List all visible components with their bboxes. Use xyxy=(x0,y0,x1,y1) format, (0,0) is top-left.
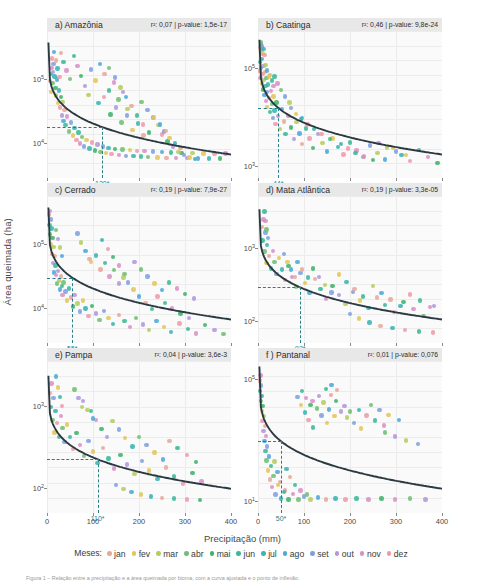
panel-stats-d: r²: 0,19 | p-value: 3,3e-05 xyxy=(362,186,438,193)
plot-area-f xyxy=(258,361,442,513)
x-tick-label: 300 xyxy=(179,517,191,526)
legend-text-ago: ago xyxy=(290,549,304,559)
x-tick-mark xyxy=(350,178,351,181)
panel-b: b) Caatingar²: 0,46 | p-value: 9,8e-2410… xyxy=(258,18,442,178)
legend-text-mar: mar xyxy=(163,549,178,559)
plot-area-c xyxy=(47,196,231,343)
x-tick-mark xyxy=(258,343,259,346)
legend-text-dez: dez xyxy=(394,549,408,559)
panel-f: f ) Pantanalr²: 0,01 | p-value: 0,076105… xyxy=(258,348,442,513)
legend-item-jul[interactable]: jul xyxy=(261,548,277,559)
y-tick-label: 104 xyxy=(33,138,44,148)
panel-c: c) Cerrador²: 0,19 | p-value: 7,9e-27105… xyxy=(47,183,231,343)
fit-curve-c xyxy=(47,196,231,343)
plot-area-a xyxy=(47,31,231,178)
y-tick-mark xyxy=(44,244,47,245)
y-tick-label: 102 xyxy=(33,483,44,493)
y-tick-mark xyxy=(44,308,47,309)
plot-area-e xyxy=(47,361,231,513)
inflection-hline-b xyxy=(258,108,278,109)
x-tick-mark xyxy=(185,513,186,516)
legend-text-mai: mai xyxy=(217,549,231,559)
x-tick-mark xyxy=(47,178,48,181)
y-tick-mark xyxy=(44,143,47,144)
legend-text-nov: nov xyxy=(367,549,381,559)
inflection-hline-e xyxy=(47,459,98,460)
legend-text-jan: jan xyxy=(114,549,125,559)
panel-name-b: b) Caatinga xyxy=(266,20,310,30)
legend-item-ago[interactable]: ago xyxy=(283,548,304,559)
y-tick-label: 104 xyxy=(33,303,44,313)
y-tick-mark xyxy=(255,379,258,380)
panel-title-strip-c: c) Cerrador²: 0,19 | p-value: 7,9e-27 xyxy=(47,183,231,196)
x-tick-mark xyxy=(442,343,443,346)
x-tick-label: 0 xyxy=(256,517,260,526)
inflection-vline-f xyxy=(281,441,282,513)
x-tick-mark xyxy=(350,513,351,516)
x-tick-mark xyxy=(442,513,443,516)
y-tick-mark xyxy=(255,501,258,502)
fit-curve-e xyxy=(47,361,231,513)
legend-item-fev[interactable]: fev xyxy=(132,548,151,559)
panel-d: d) Mata Atlânticar²: 0,19 | p-value: 3,3… xyxy=(258,183,442,343)
panel-stats-c: r²: 0,19 | p-value: 7,9e-27 xyxy=(151,186,227,193)
legend-item-jan[interactable]: jan xyxy=(107,548,126,559)
legend: Meses:janfevmarabrmaijunjulagosetoutnovd… xyxy=(0,548,485,559)
legend-item-nov[interactable]: nov xyxy=(360,548,381,559)
x-tick-label: 400 xyxy=(225,517,237,526)
x-tick-mark xyxy=(93,343,94,346)
panel-title-strip-f: f ) Pantanalr²: 0,01 | p-value: 0,076 xyxy=(258,348,442,361)
fit-curve-b xyxy=(258,31,442,178)
fit-curve-f xyxy=(258,361,442,513)
inflection-hline-a xyxy=(47,127,102,128)
legend-text-set: set xyxy=(317,549,328,559)
inflection-vline-d xyxy=(300,287,301,343)
inflection-vline-b xyxy=(278,108,279,178)
x-tick-mark xyxy=(139,513,140,516)
legend-item-out[interactable]: out xyxy=(335,548,354,559)
fit-curve-d xyxy=(258,196,442,343)
y-tick-label: 103 xyxy=(244,242,255,252)
x-tick-mark xyxy=(231,343,232,346)
legend-swatch-mar xyxy=(156,551,161,556)
y-axis-title: Área queimada (ha) xyxy=(2,218,16,306)
legend-swatch-out xyxy=(335,551,340,556)
panel-name-f: f ) Pantanal xyxy=(266,350,310,360)
panel-stats-b: r²: 0,46 | p-value: 9,8e-24 xyxy=(362,21,438,28)
x-tick-mark xyxy=(442,178,443,181)
x-tick-mark xyxy=(47,513,48,516)
legend-item-dez[interactable]: dez xyxy=(387,548,408,559)
inflection-hline-d xyxy=(258,287,300,288)
inflection-label-f: 50* xyxy=(276,515,287,522)
legend-item-abr[interactable]: abr xyxy=(184,548,204,559)
x-tick-mark xyxy=(139,178,140,181)
panel-title-strip-d: d) Mata Atlânticar²: 0,19 | p-value: 3,3… xyxy=(258,183,442,196)
legend-swatch-abr xyxy=(184,551,189,556)
panel-title-strip-a: a) Amazôniar²: 0,07 | p-value: 1,5e-17 xyxy=(47,18,231,31)
legend-item-jun[interactable]: jun xyxy=(236,548,255,559)
legend-text-jul: jul xyxy=(268,549,277,559)
panel-a: a) Amazôniar²: 0,07 | p-value: 1,5e-1710… xyxy=(47,18,231,178)
plot-area-d xyxy=(258,196,442,343)
panel-stats-e: r²: 0,04 | p-value: 3,6e-3 xyxy=(155,351,227,358)
legend-item-mar[interactable]: mar xyxy=(156,548,178,559)
y-tick-mark xyxy=(255,321,258,322)
x-tick-mark xyxy=(396,178,397,181)
x-tick-label: 200 xyxy=(344,517,356,526)
y-tick-mark xyxy=(255,248,258,249)
x-tick-label: 200 xyxy=(133,517,145,526)
x-tick-mark xyxy=(231,178,232,181)
inflection-hline-f xyxy=(258,441,281,442)
y-tick-label: 105 xyxy=(33,74,44,84)
panel-name-d: d) Mata Atlântica xyxy=(266,185,330,195)
legend-swatch-mai xyxy=(210,551,215,556)
legend-item-set[interactable]: set xyxy=(310,548,329,559)
legend-item-mai[interactable]: mai xyxy=(210,548,231,559)
x-tick-mark xyxy=(350,343,351,346)
x-tick-mark xyxy=(185,178,186,181)
y-tick-label: 103 xyxy=(244,161,255,171)
y-tick-label: 103 xyxy=(33,401,44,411)
x-tick-mark xyxy=(185,343,186,346)
y-tick-label: 101 xyxy=(244,496,255,506)
inflection-vline-e xyxy=(98,459,99,513)
